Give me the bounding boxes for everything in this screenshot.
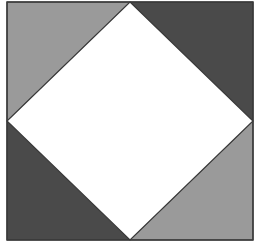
diagram-canvas: [0, 0, 258, 243]
square-diamond-diagram: [0, 0, 258, 243]
